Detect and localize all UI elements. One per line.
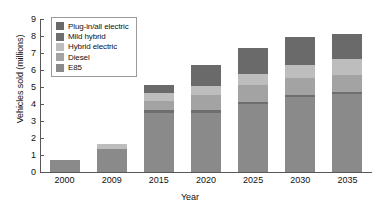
x-tick-label: 2030 — [277, 175, 324, 185]
bar-segment — [144, 85, 174, 94]
legend-item[interactable]: Plug-in/all electric — [56, 21, 129, 31]
stacked-bar[interactable] — [332, 34, 362, 172]
y-tick-label: 1 — [31, 150, 41, 160]
x-axis-ticks: 2000200920152020202520302035 — [41, 175, 371, 185]
bar-segment — [238, 104, 268, 172]
bar-segment — [97, 149, 127, 172]
legend-item[interactable]: Diesel — [56, 52, 129, 62]
bar-segment — [285, 37, 315, 65]
bar-segment — [332, 94, 362, 172]
legend-item[interactable]: E85 — [56, 63, 129, 73]
bar-segment — [191, 113, 221, 173]
x-tick-label: 2009 — [88, 175, 135, 185]
y-tick-label: 4 — [31, 99, 41, 109]
bar-segment — [144, 93, 174, 101]
y-tick-label: 3 — [31, 116, 41, 126]
bar-segment — [285, 97, 315, 172]
stacked-bar[interactable] — [97, 144, 127, 172]
bar-slot — [324, 19, 371, 172]
x-axis-line — [40, 172, 372, 173]
bar-segment — [50, 160, 80, 172]
stacked-bar[interactable] — [191, 65, 221, 172]
stacked-bar[interactable] — [285, 37, 315, 172]
bar-segment — [238, 85, 268, 102]
y-tick-label: 9 — [31, 14, 41, 24]
bar-segment — [144, 113, 174, 173]
bar-segment — [191, 86, 221, 95]
legend-label: Diesel — [68, 53, 90, 62]
bar-slot — [135, 19, 182, 172]
legend-swatch-icon — [56, 22, 64, 30]
x-tick-label: 2020 — [182, 175, 229, 185]
legend-swatch-icon — [56, 53, 64, 61]
legend-label: Mild hybrid — [68, 32, 106, 41]
bar-segment — [238, 74, 268, 85]
bar-segment — [332, 75, 362, 92]
stacked-bar-chart: Vehicles sold (millions) Year 0123456789… — [0, 0, 380, 210]
bar-segment — [285, 78, 315, 95]
x-tick-label: 2025 — [230, 175, 277, 185]
bar-segment — [191, 65, 221, 85]
y-tick-label: 7 — [31, 48, 41, 58]
bar-slot — [182, 19, 229, 172]
stacked-bar[interactable] — [144, 85, 174, 172]
legend-label: Hybrid electric — [68, 42, 117, 51]
bar-segment — [191, 95, 221, 110]
y-tick-label: 5 — [31, 82, 41, 92]
y-tick-label: 0 — [31, 167, 41, 177]
legend-swatch-icon — [56, 43, 64, 51]
legend-item[interactable]: Mild hybrid — [56, 31, 129, 41]
x-tick-label: 2000 — [41, 175, 88, 185]
bar-slot — [230, 19, 277, 172]
y-tick-label: 6 — [31, 65, 41, 75]
legend: Plug-in/all electricMild hybridHybrid el… — [51, 17, 137, 77]
legend-item[interactable]: Hybrid electric — [56, 42, 129, 52]
bar-segment — [144, 101, 174, 110]
x-axis-title: Year — [0, 192, 380, 202]
y-axis-title: Vehicles sold (millions) — [15, 4, 25, 154]
legend-swatch-icon — [56, 33, 64, 41]
legend-swatch-icon — [56, 64, 64, 72]
bar-slot — [277, 19, 324, 172]
bar-segment — [285, 65, 315, 78]
y-tick-label: 8 — [31, 31, 41, 41]
stacked-bar[interactable] — [50, 160, 80, 172]
stacked-bar[interactable] — [238, 48, 268, 172]
legend-label: E85 — [68, 63, 82, 72]
y-tick-label: 2 — [31, 133, 41, 143]
x-tick-label: 2035 — [324, 175, 371, 185]
bar-segment — [332, 34, 362, 59]
legend-label: Plug-in/all electric — [68, 22, 129, 31]
bar-segment — [238, 48, 268, 74]
x-tick-label: 2015 — [135, 175, 182, 185]
bar-segment — [332, 59, 362, 75]
